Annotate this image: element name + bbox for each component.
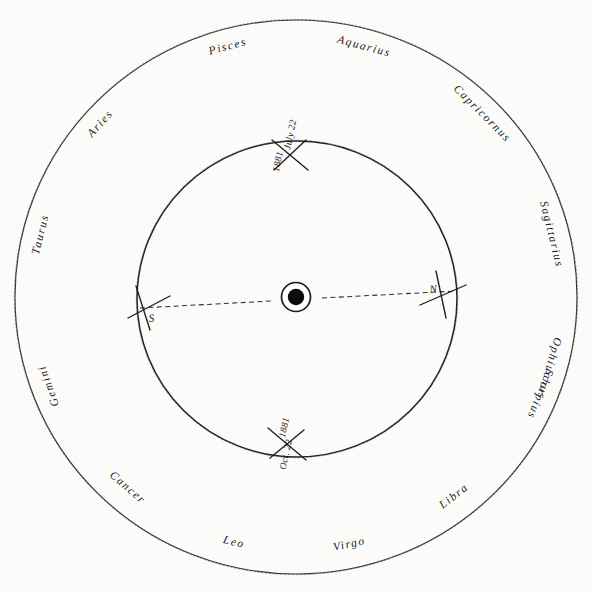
sun-core-disc (288, 289, 304, 305)
diagram-canvas: PiscesAquariusCapricornusSagittariusOphi… (0, 0, 592, 593)
orbit-diagram: PiscesAquariusCapricornusSagittariusOphi… (0, 0, 592, 593)
sun-symbol (282, 283, 311, 312)
